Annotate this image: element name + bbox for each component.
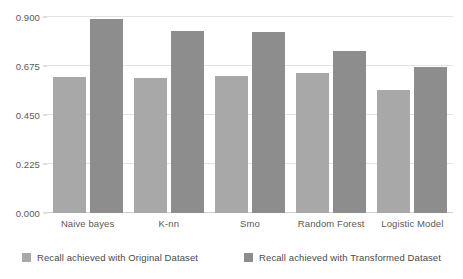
- legend-item-transformed[interactable]: Recall achieved with Transformed Dataset: [244, 252, 441, 263]
- bar: [296, 73, 329, 213]
- bar-groups: [47, 17, 453, 213]
- y-tick-label: 0.225: [0, 159, 40, 170]
- y-tick-label: 0.450: [0, 110, 40, 121]
- bar-group: [134, 17, 204, 213]
- bar: [90, 19, 123, 213]
- x-tick-label: Random Forest: [298, 218, 365, 229]
- legend-swatch-original-icon: [22, 253, 31, 262]
- bar-group: [53, 17, 123, 213]
- y-tick-label: 0.675: [0, 61, 40, 72]
- bar: [171, 31, 204, 213]
- bar: [252, 32, 285, 213]
- plot-area: [47, 17, 453, 213]
- y-tick-label: 0.900: [0, 12, 40, 23]
- legend-swatch-transformed-icon: [244, 253, 253, 262]
- bar: [53, 77, 86, 213]
- bar: [134, 78, 167, 213]
- x-tick-label: Naive bayes: [61, 218, 114, 229]
- chart-legend: Recall achieved with Original Dataset Re…: [0, 252, 463, 263]
- bar-chart: 0.0000.2250.4500.6750.900 Naive bayesK-n…: [0, 0, 463, 279]
- bar-group: [215, 17, 285, 213]
- bar: [414, 67, 447, 213]
- bar-group: [377, 17, 447, 213]
- bar-group: [296, 17, 366, 213]
- bar: [333, 51, 366, 213]
- x-tick-label: K-nn: [159, 218, 179, 229]
- legend-label-transformed: Recall achieved with Transformed Dataset: [259, 252, 441, 263]
- bar: [377, 90, 410, 213]
- x-axis-labels: Naive bayesK-nnSmoRandom ForestLogistic …: [47, 218, 453, 236]
- legend-item-original[interactable]: Recall achieved with Original Dataset: [22, 252, 198, 263]
- bar: [215, 76, 248, 213]
- x-tick-label: Smo: [240, 218, 260, 229]
- y-tick-label: 0.000: [0, 208, 40, 219]
- legend-label-original: Recall achieved with Original Dataset: [37, 252, 198, 263]
- x-tick-label: Logistic Model: [381, 218, 443, 229]
